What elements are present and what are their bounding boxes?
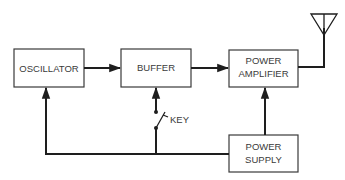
amplifier-to-antenna-line bbox=[298, 28, 324, 67]
supply-to-oscillator-line bbox=[46, 88, 229, 154]
power-amplifier-block: POWER AMPLIFIER bbox=[229, 50, 298, 87]
buffer-block: BUFFER bbox=[121, 49, 191, 87]
power-supply-block: POWER SUPPLY bbox=[229, 135, 298, 172]
power-amplifier-label-line2: AMPLIFIER bbox=[238, 68, 288, 79]
buffer-label: BUFFER bbox=[137, 62, 175, 73]
key-label: KEY bbox=[170, 114, 190, 125]
antenna-icon bbox=[311, 14, 337, 35]
power-supply-label-line2: SUPPLY bbox=[245, 154, 282, 165]
oscillator-block: OSCILLATOR bbox=[14, 49, 84, 87]
transmitter-block-diagram: OSCILLATOR BUFFER POWER AMPLIFIER POWER … bbox=[0, 0, 345, 180]
power-supply-label-line1: POWER bbox=[246, 141, 282, 152]
key-switch-icon bbox=[154, 110, 168, 130]
power-amplifier-label-line1: POWER bbox=[246, 55, 282, 66]
oscillator-label: OSCILLATOR bbox=[19, 63, 78, 74]
